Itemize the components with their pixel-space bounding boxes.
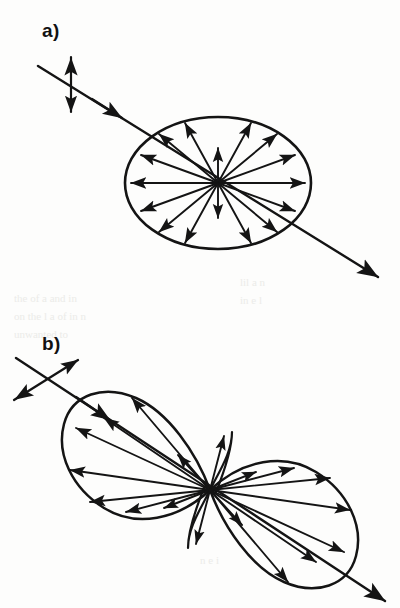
panel-b-label: b) — [42, 333, 61, 354]
figure-root: the of a and in on the l a of in n unwan… — [0, 0, 400, 608]
radial-arrow — [210, 436, 224, 490]
radial-arrow — [141, 155, 218, 183]
radial-arrow — [218, 134, 277, 183]
panel-a: a) — [38, 20, 378, 277]
panel-b-polarization-double-arrow — [14, 360, 78, 400]
radial-arrow — [159, 183, 218, 232]
radial-arrow — [141, 183, 218, 211]
radial-arrow — [90, 490, 210, 502]
radial-arrow — [196, 490, 210, 544]
page-bleed-through: the of a and in on the l a of in n unwan… — [14, 276, 266, 566]
panel-a-label: a) — [42, 20, 60, 41]
bleed-line: in e l — [240, 294, 262, 306]
bleed-line: n e i — [200, 554, 219, 566]
radial-arrow — [218, 183, 295, 211]
scattering-diagram-svg: the of a and in on the l a of in n unwan… — [0, 0, 400, 608]
radial-arrow — [218, 183, 251, 243]
radial-arrow — [218, 155, 295, 183]
panel-b-beam-direction-arrow — [76, 397, 110, 420]
panel-a-incident-beam — [38, 66, 378, 277]
radial-arrow — [218, 123, 251, 183]
panel-a-beam-direction-arrow — [92, 99, 122, 118]
radial-arrow — [210, 478, 330, 490]
bleed-line: the of a and in — [14, 292, 77, 304]
radial-arrow — [185, 183, 218, 243]
bleed-line: lil a n — [240, 276, 266, 288]
bleed-line: on the l a of in n — [14, 310, 87, 322]
